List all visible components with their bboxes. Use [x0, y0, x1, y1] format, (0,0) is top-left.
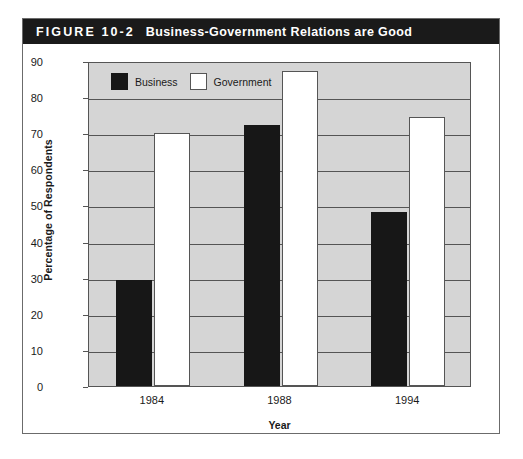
bar-business-1988: [244, 125, 280, 386]
y-axis-tick-label: 10: [3, 345, 43, 357]
y-axis-tick-label: 80: [3, 92, 43, 104]
y-axis-tick-mark: [83, 387, 88, 388]
y-axis-tick-label: 60: [3, 164, 43, 176]
x-axis-tick-label-1984: 1984: [107, 394, 197, 406]
figure-number: FIGURE 10-2: [36, 25, 135, 39]
x-axis-title: Year: [88, 419, 471, 431]
legend-swatch-business: [111, 73, 128, 90]
legend: BusinessGovernment: [111, 73, 271, 90]
figure-title-bar: FIGURE 10-2 Business-Government Relation…: [23, 19, 499, 44]
bar-government-1984: [154, 133, 190, 386]
plot-area: [88, 62, 471, 387]
x-axis-tick-label-1994: 1994: [362, 394, 452, 406]
x-axis-tick-label-1988: 1988: [235, 394, 325, 406]
y-axis-tick-label: 70: [3, 128, 43, 140]
y-axis-tick-label: 50: [3, 200, 43, 212]
y-axis-title: Percentage of Respondents: [42, 130, 54, 290]
y-axis-tick-label: 20: [3, 309, 43, 321]
y-axis-tick-label: 0: [3, 381, 43, 393]
legend-item-business: Business: [111, 73, 178, 90]
bar-government-1988: [282, 71, 318, 386]
bar-government-1994: [409, 117, 445, 386]
bar-business-1994: [371, 212, 407, 386]
legend-label-business: Business: [135, 76, 178, 88]
figure-container: FIGURE 10-2 Business-Government Relation…: [22, 18, 500, 434]
legend-swatch-government: [190, 73, 207, 90]
y-axis-tick-label: 30: [3, 273, 43, 285]
figure-title: FIGURE 10-2 Business-Government Relation…: [23, 25, 412, 39]
y-axis-tick-label: 90: [3, 56, 43, 68]
chart-area: Percentage of Respondents 01020304050607…: [23, 44, 499, 433]
y-axis-tick-label: 40: [3, 237, 43, 249]
figure-title-label: Business-Government Relations are Good: [146, 25, 413, 39]
legend-item-government: Government: [190, 73, 272, 90]
legend-label-government: Government: [214, 76, 272, 88]
bar-business-1984: [116, 280, 152, 386]
gridline: [89, 99, 470, 100]
